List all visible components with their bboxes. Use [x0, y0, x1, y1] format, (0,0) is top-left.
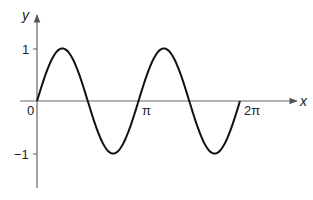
y-tick-label-1: 1 — [22, 42, 29, 57]
sine-chart: y x 1 −1 0 π 2π — [0, 0, 313, 200]
y-axis-label: y — [21, 7, 30, 23]
x-tick-label-pi: π — [142, 103, 151, 118]
origin-label: 0 — [27, 103, 34, 118]
x-axis-label: x — [299, 93, 308, 109]
x-tick-label-2pi: 2π — [244, 103, 260, 118]
y-tick-label-minus-1: −1 — [14, 147, 29, 162]
